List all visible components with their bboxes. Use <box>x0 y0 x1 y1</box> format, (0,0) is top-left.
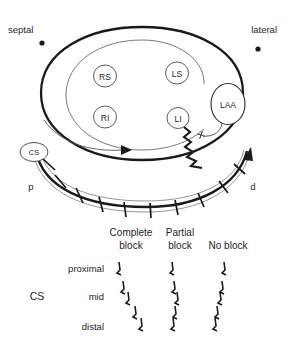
laa-label: LAA <box>220 100 236 110</box>
cs-electrode-tick <box>198 193 204 207</box>
cs-electrode-tick <box>99 197 103 212</box>
laa-arrow-path <box>203 124 222 136</box>
pv-ri: RI <box>94 106 117 128</box>
electrogram-deflection <box>172 281 176 294</box>
lateral-dot-icon <box>255 46 260 51</box>
electrogram-deflection <box>171 318 175 331</box>
la-wall-path <box>41 27 243 160</box>
electrogram-deflection <box>121 281 125 294</box>
recordings-panel: Complete block Partial block No block CS… <box>30 227 249 332</box>
cs-electrode-tick <box>124 202 126 217</box>
left-atrium-outline <box>41 27 243 160</box>
cs-electrode-tick <box>42 158 55 170</box>
cs-electrode-tick <box>175 200 178 215</box>
la-inner-contour <box>66 40 204 150</box>
cs-distal-marker-label: d <box>250 181 255 192</box>
diagram-svg: septal lateral RS LS RI <box>0 0 285 348</box>
electrogram-deflection <box>133 306 137 319</box>
cs-catheter-label: CS <box>29 148 39 157</box>
cs-catheter-group: CS p d <box>20 143 256 219</box>
electrogram-deflection <box>222 262 226 275</box>
electrogram-deflection <box>139 318 143 331</box>
row-label-distal: distal <box>82 321 104 332</box>
column-header-partial-line2: block <box>168 240 192 251</box>
electrogram-deflection <box>213 318 217 331</box>
pv-ri-label: RI <box>101 113 110 123</box>
left-atrial-appendage: LAA <box>211 84 245 125</box>
pv-li-label: LI <box>174 114 181 124</box>
figure-container: septal lateral RS LS RI <box>0 0 285 348</box>
pv-rs-label: RS <box>99 72 111 82</box>
activation-arrowhead-icon <box>121 145 132 155</box>
cs-proximal-marker-label: p <box>28 181 33 192</box>
electrogram-deflection <box>117 262 121 275</box>
la-inner-arc-path <box>66 40 204 150</box>
electrogram-column-partial <box>170 262 179 331</box>
column-header-partial-line1: Partial <box>166 227 194 238</box>
septal-label: septal <box>8 24 33 35</box>
recordings-column-headers: Complete block Partial block No block <box>110 227 249 251</box>
pv-rs: RS <box>94 65 117 87</box>
cs-distal-arrowhead-icon <box>243 147 253 161</box>
recordings-group-label: CS <box>30 290 45 302</box>
column-header-complete-line1: Complete <box>110 227 153 238</box>
electrogram-deflection <box>218 292 222 305</box>
lateral-label: lateral <box>251 24 277 35</box>
electrogram-deflection <box>173 306 177 319</box>
row-label-proximal: proximal <box>68 263 104 274</box>
recordings-row-labels: CS proximal mid distal <box>30 263 104 332</box>
electrogram-column-noblock <box>213 262 226 331</box>
electrogram-column-complete <box>117 262 143 331</box>
cs-electrode-tick <box>150 203 151 218</box>
row-label-mid: mid <box>89 291 104 302</box>
pulmonary-veins-group: RS LS RI LI <box>94 62 190 129</box>
column-header-noblock: No block <box>209 240 249 251</box>
pv-ls: LS <box>166 62 189 84</box>
pv-li: LI <box>167 108 189 129</box>
septal-dot-icon <box>39 40 44 45</box>
pv-ls-label: LS <box>172 69 183 79</box>
electrogram-deflection <box>215 306 219 319</box>
electrogram-deflection <box>126 292 130 305</box>
column-header-complete-line2: block <box>119 240 143 251</box>
electrogram-deflection <box>170 262 174 275</box>
